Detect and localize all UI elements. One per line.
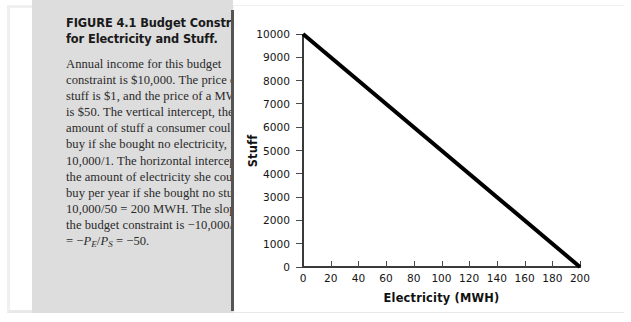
figure-number: FIGURE 4.1 bbox=[66, 16, 136, 30]
x-tick-label: 200 bbox=[570, 272, 590, 284]
x-tick-mark bbox=[552, 261, 553, 267]
figure-card: FIGURE 4.1 Budget Constraint for Electri… bbox=[0, 0, 631, 322]
x-tick-mark bbox=[331, 261, 332, 267]
formula-price-stuff: P bbox=[100, 234, 108, 248]
x-tick-mark bbox=[469, 261, 470, 267]
y-tick-label: 7000 bbox=[234, 98, 290, 110]
x-tick-label: 120 bbox=[459, 272, 479, 284]
figure-caption: Annual income for this budget constraint… bbox=[66, 56, 258, 252]
x-tick-label: 80 bbox=[407, 272, 420, 284]
x-tick-label: 140 bbox=[487, 272, 507, 284]
x-tick-mark bbox=[386, 261, 387, 267]
y-tick-label: 5000 bbox=[234, 145, 290, 157]
y-tick-mark bbox=[296, 150, 302, 151]
y-tick-mark bbox=[296, 34, 302, 35]
y-tick-mark bbox=[296, 80, 302, 81]
y-tick-label: 1000 bbox=[234, 238, 290, 250]
y-axis-line bbox=[302, 34, 304, 268]
y-tick-mark bbox=[296, 197, 302, 198]
x-tick-label: 40 bbox=[352, 272, 365, 284]
x-tick-mark bbox=[358, 261, 359, 267]
formula-tail: = −50. bbox=[113, 234, 150, 248]
y-tick-label: 10000 bbox=[234, 28, 290, 40]
x-tick-label: 20 bbox=[324, 272, 337, 284]
x-tick-mark bbox=[442, 261, 443, 267]
y-tick-label: 9000 bbox=[234, 51, 290, 63]
y-tick-mark bbox=[296, 267, 302, 268]
y-tick-label: 3000 bbox=[234, 191, 290, 203]
x-tick-label: 160 bbox=[514, 272, 534, 284]
x-tick-label: 180 bbox=[542, 272, 562, 284]
y-tick-mark bbox=[296, 243, 302, 244]
figure-title: FIGURE 4.1 Budget Constraint for Electri… bbox=[66, 16, 258, 47]
budget-constraint-chart: 0100020003000400050006000700080009000100… bbox=[234, 6, 624, 312]
caption-panel: FIGURE 4.1 Budget Constraint for Electri… bbox=[32, 0, 233, 313]
x-tick-mark bbox=[497, 261, 498, 267]
y-tick-mark bbox=[296, 103, 302, 104]
caption-text: Annual income for this budget constraint… bbox=[66, 57, 256, 232]
x-tick-label: 100 bbox=[431, 272, 451, 284]
y-tick-mark bbox=[296, 57, 302, 58]
y-tick-label: 2000 bbox=[234, 214, 290, 226]
y-axis-title: Stuff bbox=[246, 135, 260, 168]
y-tick-label: 0 bbox=[234, 261, 290, 273]
y-tick-mark bbox=[296, 127, 302, 128]
y-tick-label: 8000 bbox=[234, 75, 290, 87]
y-tick-label: 4000 bbox=[234, 168, 290, 180]
caption-content: FIGURE 4.1 Budget Constraint for Electri… bbox=[66, 16, 258, 252]
x-tick-mark bbox=[525, 261, 526, 267]
x-axis-title: Electricity (MWH) bbox=[302, 291, 581, 305]
y-tick-mark bbox=[296, 220, 302, 221]
y-tick-label: 6000 bbox=[234, 121, 290, 133]
x-tick-label: 60 bbox=[379, 272, 392, 284]
x-tick-mark bbox=[414, 261, 415, 267]
y-tick-mark bbox=[296, 173, 302, 174]
x-tick-mark bbox=[580, 261, 581, 267]
x-tick-label: 0 bbox=[300, 272, 307, 284]
